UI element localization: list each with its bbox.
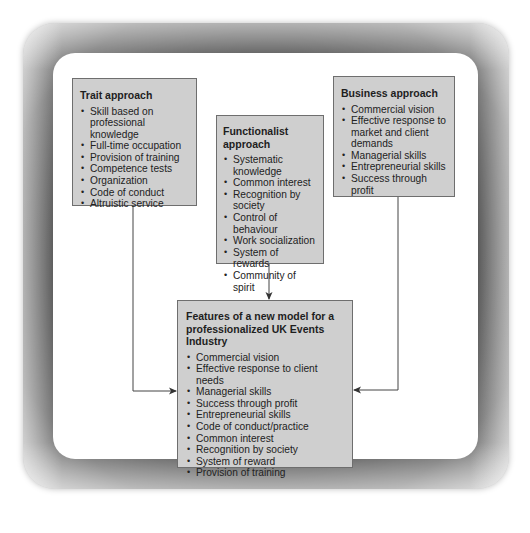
trait-approach-box: Trait approach Skill based on profession…	[72, 78, 197, 206]
list-item: Common interest	[186, 433, 344, 445]
list-item: Skill based on professional knowledge	[80, 106, 189, 141]
new-model-list: Commercial visionEffective response to c…	[186, 352, 344, 480]
list-item: Provision of training	[186, 467, 344, 479]
functionalist-approach-title: Functionalist approach	[223, 125, 317, 150]
list-item: Code of conduct	[80, 187, 189, 199]
list-item: Control of behaviour	[223, 212, 317, 235]
functionalist-approach-list: Systematic knowledgeCommon interestRecog…	[223, 154, 317, 293]
list-item: Full-time occupation	[80, 140, 189, 152]
list-item: Community of spirit	[223, 270, 317, 293]
list-item: Altruistic service	[80, 198, 189, 210]
list-item: Code of conduct/practice	[186, 421, 344, 433]
list-item: Recognition by society	[186, 444, 344, 456]
list-item: Managerial skills	[341, 150, 447, 162]
list-item: Recognition by society	[223, 189, 317, 212]
new-model-box: Features of a new model for a profession…	[177, 300, 353, 468]
edge-trait-to-model	[133, 206, 176, 391]
list-item: Organization	[80, 175, 189, 187]
list-item: Work socialization	[223, 235, 317, 247]
trait-approach-list: Skill based on professional knowledgeFul…	[80, 106, 189, 210]
list-item: Success through profit	[341, 173, 447, 196]
edge-business-to-model	[354, 197, 398, 390]
list-item: Commercial vision	[341, 104, 447, 116]
list-item: Common interest	[223, 177, 317, 189]
list-item: Entrepreneurial skills	[186, 409, 344, 421]
list-item: Competence tests	[80, 163, 189, 175]
list-item: Systematic knowledge	[223, 154, 317, 177]
business-approach-title: Business approach	[341, 87, 447, 100]
functionalist-approach-box: Functionalist approach Systematic knowle…	[216, 115, 324, 264]
trait-approach-title: Trait approach	[80, 89, 189, 102]
list-item: Entrepreneurial skills	[341, 161, 447, 173]
list-item: Success through profit	[186, 398, 344, 410]
list-item: System of reward	[186, 456, 344, 468]
new-model-title: Features of a new model for a profession…	[186, 310, 344, 348]
list-item: System of rewards	[223, 247, 317, 270]
business-approach-list: Commercial visionEffective response to m…	[341, 104, 447, 197]
list-item: Provision of training	[80, 152, 189, 164]
list-item: Commercial vision	[186, 352, 344, 364]
business-approach-box: Business approach Commercial visionEffec…	[333, 76, 455, 197]
list-item: Effective response to market and client …	[341, 115, 447, 150]
list-item: Effective response to client needs	[186, 363, 344, 386]
list-item: Managerial skills	[186, 386, 344, 398]
